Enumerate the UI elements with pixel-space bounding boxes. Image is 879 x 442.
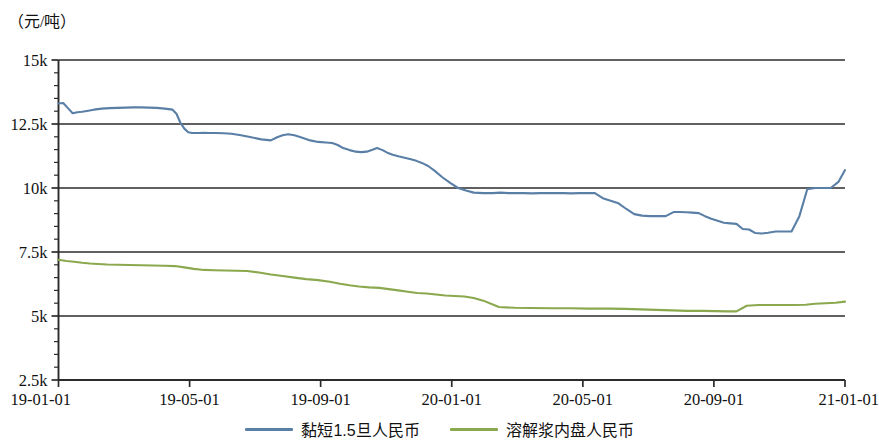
y-axis-tick-label: 7.5k bbox=[19, 243, 49, 262]
data-series-line-0 bbox=[59, 103, 846, 234]
x-axis-tick-label: 20-01-01 bbox=[422, 390, 483, 409]
y-axis-tick-label: 12.5k bbox=[10, 115, 48, 134]
legend-swatch-line-icon-0 bbox=[245, 428, 293, 431]
data-series-group bbox=[59, 103, 846, 311]
x-axis-ticks-group bbox=[59, 380, 846, 387]
x-axis-tick-labels-group: 19-01-0119-05-0119-09-0120-01-0120-05-01… bbox=[11, 390, 879, 409]
y-axis-tick-label: 10k bbox=[23, 179, 49, 198]
chart-figure: （元/吨） 15k12.5k10k7.5k5k2.5k 19-01-0119-0… bbox=[0, 0, 879, 442]
x-axis-tick-label: 19-01-01 bbox=[11, 390, 72, 409]
y-axis-tick-labels-group: 15k12.5k10k7.5k5k2.5k bbox=[10, 51, 48, 390]
x-axis-tick-label: 20-09-01 bbox=[684, 390, 745, 409]
data-series-line-1 bbox=[59, 260, 846, 312]
legend-item-0[interactable]: 黏短1.5旦人民币 bbox=[245, 417, 419, 441]
x-axis-tick-label: 20-05-01 bbox=[553, 390, 614, 409]
legend-label-1: 溶解浆内盘人民币 bbox=[506, 417, 634, 441]
y-axis-ticks-group bbox=[52, 60, 59, 380]
x-axis-tick-label: 21-01-01 bbox=[819, 390, 879, 409]
legend-item-1[interactable]: 溶解浆内盘人民币 bbox=[450, 417, 634, 441]
y-axis-tick-label: 2.5k bbox=[19, 371, 49, 390]
y-axis-tick-label: 5k bbox=[31, 307, 48, 326]
line-chart-plot-area: 15k12.5k10k7.5k5k2.5k 19-01-0119-05-0119… bbox=[0, 0, 879, 442]
legend-swatch-line-icon-1 bbox=[450, 428, 498, 431]
chart-legend: 黏短1.5旦人民币 溶解浆内盘人民币 bbox=[0, 417, 879, 441]
legend-label-0: 黏短1.5旦人民币 bbox=[301, 417, 419, 441]
y-axis-tick-label: 15k bbox=[23, 51, 49, 70]
x-axis-tick-label: 19-09-01 bbox=[290, 390, 351, 409]
x-axis-tick-label: 19-05-01 bbox=[159, 390, 220, 409]
gridlines-group bbox=[59, 60, 846, 380]
